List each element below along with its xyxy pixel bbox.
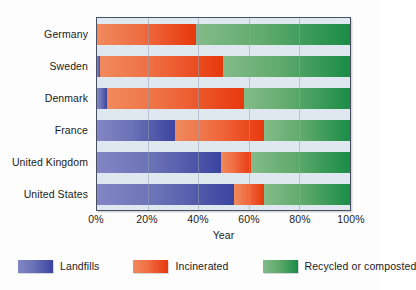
legend-swatch xyxy=(133,260,168,273)
x-axis-tick-label: 80% xyxy=(289,213,310,225)
legend-item[interactable]: Landfills xyxy=(18,260,99,273)
bar-segment xyxy=(196,24,350,45)
plot-area xyxy=(96,17,351,211)
legend-swatch xyxy=(263,260,298,273)
bar-row xyxy=(97,152,350,173)
bar-segment xyxy=(221,152,251,173)
y-axis-label: Germany xyxy=(44,28,92,40)
bar-row xyxy=(97,88,350,109)
bar-row xyxy=(97,120,350,141)
bar-series-container xyxy=(97,18,350,210)
bar-segment xyxy=(264,184,350,205)
x-axis-tick-label: 40% xyxy=(187,213,208,225)
x-axis-tick-label: 60% xyxy=(238,213,259,225)
bar-row xyxy=(97,56,350,77)
bar-segment xyxy=(251,152,350,173)
bar-row xyxy=(97,24,350,45)
bar-segment xyxy=(264,120,350,141)
y-axis-label: France xyxy=(55,124,92,136)
legend-label: Incinerated xyxy=(175,260,228,272)
bar-segment xyxy=(97,24,196,45)
x-axis-tick-label: 0% xyxy=(88,213,103,225)
x-axis-tick-label: 20% xyxy=(136,213,157,225)
bar-segment xyxy=(100,56,224,77)
bar-row xyxy=(97,184,350,205)
x-axis-tick-label: 100% xyxy=(337,213,364,225)
legend-item[interactable]: Incinerated xyxy=(133,260,228,273)
x-axis-tick-labels: 0%20%40%60%80%100% xyxy=(96,213,351,227)
bar-segment xyxy=(97,120,175,141)
bar-segment xyxy=(244,88,350,109)
y-axis-label: Denmark xyxy=(45,92,92,104)
x-axis-title: Year xyxy=(96,229,351,241)
bar-segment xyxy=(175,120,264,141)
bar-segment xyxy=(223,56,350,77)
y-axis-category-labels: GermanySwedenDenmarkFranceUnited Kingdom… xyxy=(0,18,92,210)
y-axis-label: Sweden xyxy=(49,60,92,72)
bar-segment xyxy=(97,184,234,205)
chart-legend: LandfillsIncineratedRecycled or composte… xyxy=(14,255,370,277)
bar-segment xyxy=(97,152,221,173)
legend-label: Landfills xyxy=(60,260,99,272)
legend-item[interactable]: Recycled or composted xyxy=(263,260,416,273)
y-axis-label: United Kingdom xyxy=(12,156,92,168)
legend-label: Recycled or composted xyxy=(305,260,416,272)
bar-segment xyxy=(234,184,264,205)
legend-swatch xyxy=(18,260,53,273)
y-axis-label: United States xyxy=(24,188,92,200)
bar-segment xyxy=(107,88,244,109)
bar-segment xyxy=(97,88,107,109)
